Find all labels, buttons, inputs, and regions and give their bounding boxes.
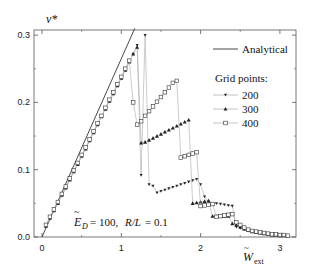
svg-text:E: E xyxy=(73,215,82,229)
x-tick-label: 3 xyxy=(277,243,282,253)
series-400 xyxy=(44,59,289,238)
y-axis-label: v* xyxy=(46,12,57,26)
svg-text:~: ~ xyxy=(244,243,249,253)
legend-item-200: 200 xyxy=(213,89,259,101)
svg-text:400: 400 xyxy=(242,117,259,129)
svg-text:~: ~ xyxy=(74,206,80,217)
legend: Analytical Grid points: 200300400 xyxy=(213,43,288,129)
legend-group-title: Grid points: xyxy=(215,72,268,84)
y-tick-label: 0.2 xyxy=(17,97,30,107)
y-tick-label: 0.0 xyxy=(17,232,30,242)
x-axis-label: W ~ ext xyxy=(243,243,265,266)
legend-analytical: Analytical xyxy=(242,43,288,55)
x-tick-label: 2 xyxy=(198,243,203,253)
y-tick-label: 0.1 xyxy=(17,165,30,175)
svg-text:ext: ext xyxy=(254,257,265,266)
legend-item-400: 400 xyxy=(213,117,259,129)
annotation: E ~ D = 100, R/L = 0.1 xyxy=(73,206,168,231)
svg-text:D: D xyxy=(81,222,88,231)
legend-item-300: 300 xyxy=(213,103,259,115)
svg-text:300: 300 xyxy=(242,103,259,115)
chart: 01230.00.10.20.3 v* W ~ ext Analytical G… xyxy=(0,0,312,277)
x-tick-label: 1 xyxy=(119,243,124,253)
svg-text:200: 200 xyxy=(242,89,259,101)
series-200 xyxy=(44,34,289,237)
x-tick-label: 0 xyxy=(39,243,44,253)
y-tick-label: 0.3 xyxy=(17,30,30,40)
svg-text:= 0.1: = 0.1 xyxy=(145,216,168,228)
svg-text:R/L: R/L xyxy=(124,216,141,228)
svg-text:= 100,: = 100, xyxy=(90,216,118,228)
